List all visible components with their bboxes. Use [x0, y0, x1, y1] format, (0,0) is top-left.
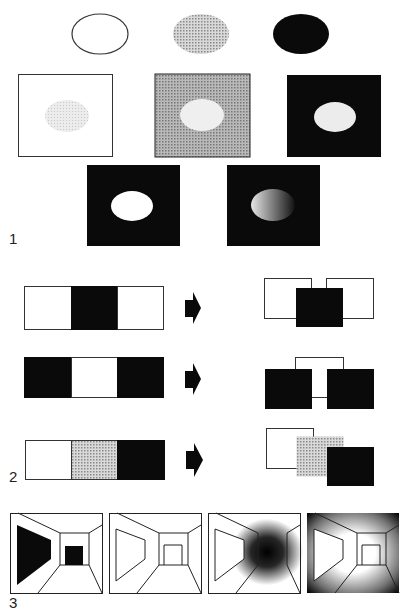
- figure-canvas: [0, 0, 407, 612]
- corridor-dark-edges: [307, 513, 399, 593]
- grey-bg-square: [155, 74, 250, 157]
- panel-label-2: 2: [9, 468, 17, 485]
- corridor-solid-shapes: [11, 513, 103, 594]
- black-bg-white-ellipse: [87, 165, 180, 246]
- result-stacked-squares: [267, 429, 375, 487]
- panel-2: [24, 279, 374, 487]
- black-bg-gradient-ellipse: [227, 165, 320, 246]
- panel-1: [19, 14, 382, 246]
- right-arrow-icon: [186, 443, 203, 477]
- white-bg-square: [19, 75, 113, 157]
- panel-3: [11, 513, 400, 594]
- result-white-behind: [265, 358, 374, 410]
- panel-label-3: 3: [9, 594, 17, 611]
- result-black-front: [265, 279, 374, 328]
- grey-ellipse: [173, 14, 229, 54]
- right-arrow-icon: [185, 363, 201, 395]
- outline-ellipse: [72, 14, 128, 54]
- right-arrow-icon: [185, 292, 201, 324]
- bar-white-black-white: [25, 286, 164, 330]
- bar-white-grey-black: [26, 440, 166, 480]
- corridor-dark-center: [209, 513, 304, 594]
- bar-black-white-black: [24, 357, 164, 398]
- black-bg-square: [287, 75, 381, 157]
- corridor-outline: [110, 513, 202, 594]
- panel-label-1: 1: [9, 230, 17, 247]
- black-ellipse: [273, 14, 329, 54]
